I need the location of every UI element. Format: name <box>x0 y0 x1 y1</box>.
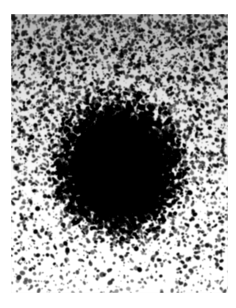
photographic-plate <box>11 14 228 293</box>
figure-root: Coarse-grained black-and-white photograp… <box>0 0 236 308</box>
plate-grain-canvas <box>11 14 228 293</box>
